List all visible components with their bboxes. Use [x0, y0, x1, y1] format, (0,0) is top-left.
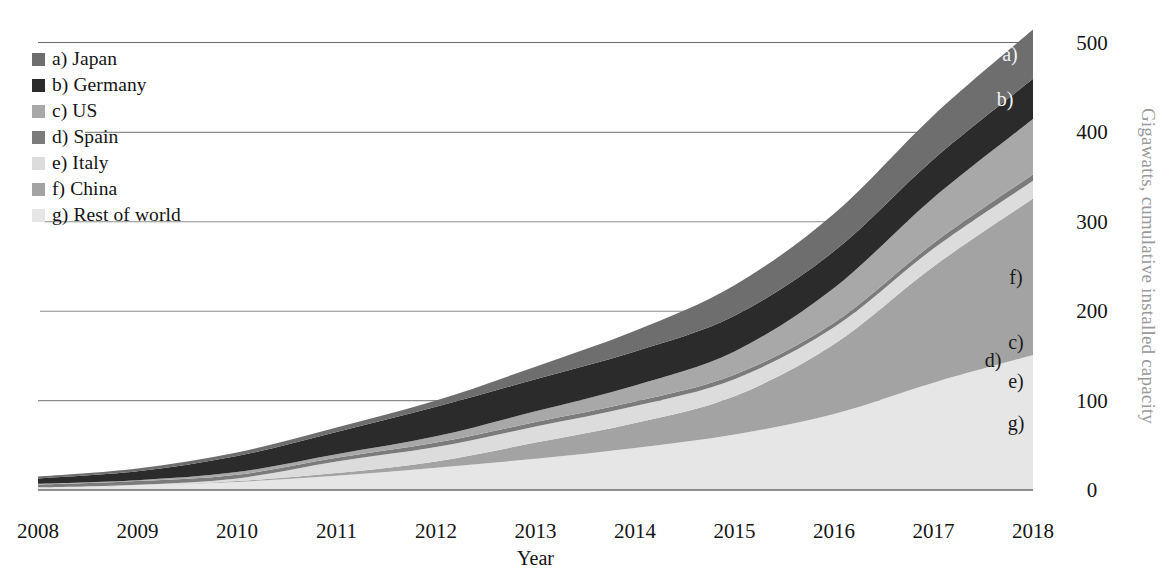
y-tick-label-500: 500: [1076, 31, 1108, 56]
x-tick-label-2010: 2010: [216, 519, 258, 544]
legend-swatch-us: [32, 105, 45, 118]
legend-item-rest-of-world[interactable]: g) Rest of world: [32, 203, 181, 227]
x-tick-label-2016: 2016: [813, 519, 855, 544]
legend-label-china: f) China: [52, 178, 117, 200]
area-bands: [38, 30, 1033, 490]
x-tick-label-2008: 2008: [17, 519, 59, 544]
legend-swatch-japan: [32, 53, 45, 66]
legend-swatch-china: [32, 183, 45, 196]
legend-swatch-germany: [32, 79, 45, 92]
x-tick-label-2009: 2009: [117, 519, 159, 544]
legend-label-japan: a) Japan: [52, 48, 117, 70]
legend-item-china[interactable]: f) China: [32, 177, 181, 201]
x-tick-label-2018: 2018: [1012, 519, 1054, 544]
x-tick-label-2012: 2012: [415, 519, 457, 544]
legend-swatch-spain: [32, 131, 45, 144]
legend-item-germany[interactable]: b) Germany: [32, 73, 181, 97]
legend-swatch-italy: [32, 157, 45, 170]
x-axis-title: Year: [517, 547, 554, 570]
legend: a) Japan b) Germany c) US d) Spain e) It…: [32, 47, 181, 227]
x-tick-label-2011: 2011: [316, 519, 357, 544]
legend-label-us: c) US: [52, 100, 97, 122]
y-tick-label-100: 100: [1076, 388, 1108, 413]
legend-item-japan[interactable]: a) Japan: [32, 47, 181, 71]
x-tick-label-2015: 2015: [714, 519, 756, 544]
y-axis-title: Gigawatts, cumulative installed capacity: [1137, 108, 1159, 424]
legend-label-rest-of-world: g) Rest of world: [52, 204, 181, 226]
legend-label-germany: b) Germany: [52, 74, 147, 96]
x-tick-label-2013: 2013: [515, 519, 557, 544]
chart-figure: a) Japan b) Germany c) US d) Spain e) It…: [0, 0, 1175, 572]
x-tick-label-2014: 2014: [614, 519, 656, 544]
y-tick-label-300: 300: [1076, 209, 1108, 234]
legend-label-italy: e) Italy: [52, 152, 109, 174]
legend-item-spain[interactable]: d) Spain: [32, 125, 181, 149]
legend-label-spain: d) Spain: [52, 126, 118, 148]
legend-swatch-rest-of-world: [32, 209, 45, 222]
legend-item-us[interactable]: c) US: [32, 99, 181, 123]
y-tick-label-200: 200: [1076, 299, 1108, 324]
y-tick-label-400: 400: [1076, 120, 1108, 145]
y-tick-label-0: 0: [1087, 478, 1098, 503]
x-tick-label-2017: 2017: [913, 519, 955, 544]
legend-item-italy[interactable]: e) Italy: [32, 151, 181, 175]
